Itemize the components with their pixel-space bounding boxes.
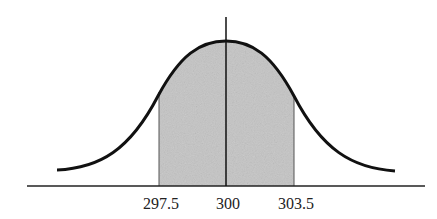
normal-curve-chart: 297.5 300 303.5 — [0, 0, 437, 219]
tick-label-center: 300 — [216, 195, 240, 212]
tick-label-left: 297.5 — [143, 195, 179, 212]
tick-label-right: 303.5 — [278, 195, 314, 212]
